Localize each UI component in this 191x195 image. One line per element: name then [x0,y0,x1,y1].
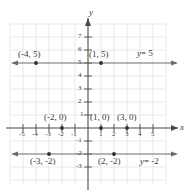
equation-rhs-bottom: = -2 [144,156,159,166]
x-tick-label--3: -3 [45,131,51,138]
y-tick-label--2: -2 [76,150,82,157]
data-point-1-5 [99,61,103,65]
y-axis-arrow-up [85,18,91,26]
y-tick-label-3: 3 [78,85,82,92]
x-tick-label-2: 2 [112,131,116,138]
data-point-neg4-5 [34,61,38,65]
point-label-neg2-0: (-2, 0) [44,113,67,122]
y-tick-label-1: 1 [80,111,84,118]
point-label-neg4-5: (-4, 5) [18,50,41,59]
equation-rhs-top: = 5 [141,48,153,58]
point-label-1-5: (1, 5) [89,50,109,59]
equation-label-y-equals-neg2: y= -2 [140,157,159,166]
point-label-1-0: (1, 0) [90,113,110,122]
y-tick-label-2: 2 [78,98,82,105]
graph-canvas [0,0,191,195]
point-label-3-0: (3, 0) [117,113,137,122]
point-label-2-neg2: (2, -2) [98,157,121,166]
x-tick-label-3: 3 [125,131,129,138]
y-tick-label-6: 6 [78,46,82,53]
x-axis-arrow-right [171,125,178,131]
equation-label-y-equals-5: y= 5 [137,49,153,58]
point-label-neg3-neg2: (-3, -2) [30,157,56,166]
y-tick-label--1: -1 [76,137,82,144]
y-tick-label--3: -3 [76,163,82,170]
coordinate-plane-figure: x y -5 -4 -3 -2 -1 1 2 3 4 5 7 6 5 4 3 2… [0,0,191,195]
x-tick-label--4: -4 [32,131,38,138]
y-tick-label-5: 5 [78,59,82,66]
y-tick-label-4: 4 [78,72,82,79]
x-axis-label: x [180,123,184,132]
x-tick-label--2: -2 [58,131,64,138]
x-tick-label-4: 4 [138,131,142,138]
x-tick-label-1: 1 [99,131,103,138]
plotted-lines [13,63,176,154]
y-tick-label-7: 7 [78,33,82,40]
x-tick-label-5: 5 [151,131,155,138]
x-tick-label--5: -5 [19,131,25,138]
y-axis-label: y [89,8,93,17]
